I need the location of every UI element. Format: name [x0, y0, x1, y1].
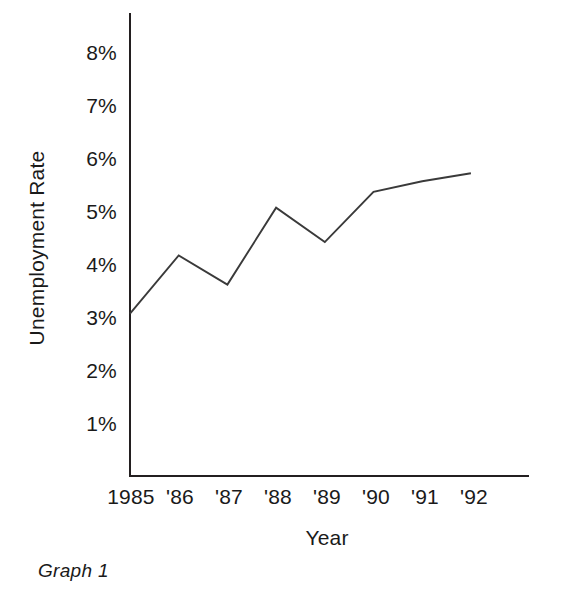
y-tick-label-1: 1%	[86, 412, 117, 435]
unemployment-rate-series-line	[130, 173, 471, 313]
unemployment-rate-line-chart: 8% 7% 6% 5% 4% 3% 2% 1% 1985 '86 '87 '88…	[0, 0, 572, 609]
x-axis-title: Year	[305, 526, 348, 549]
y-tick-label-6: 6%	[86, 147, 117, 170]
y-tick-label-4: 4%	[86, 253, 117, 276]
x-tick-label-86: '86	[166, 485, 194, 508]
y-tick-label-5: 5%	[86, 200, 117, 223]
y-tick-label-8: 8%	[86, 41, 117, 64]
x-tick-label-87: '87	[215, 485, 243, 508]
x-tick-label-91: '91	[411, 485, 439, 508]
y-tick-label-7: 7%	[86, 94, 117, 117]
x-axis-tick-labels: 1985 '86 '87 '88 '89 '90 '91 '92	[107, 485, 488, 508]
figure-caption: Graph 1	[38, 560, 109, 581]
y-tick-label-2: 2%	[86, 359, 117, 382]
chart-canvas: 8% 7% 6% 5% 4% 3% 2% 1% 1985 '86 '87 '88…	[0, 0, 572, 609]
x-tick-label-88: '88	[264, 485, 292, 508]
y-tick-label-3: 3%	[86, 306, 117, 329]
x-tick-label-90: '90	[362, 485, 390, 508]
x-tick-label-89: '89	[313, 485, 341, 508]
y-axis-tick-labels: 8% 7% 6% 5% 4% 3% 2% 1%	[86, 41, 117, 435]
y-axis-title: Unemployment Rate	[25, 151, 48, 346]
x-tick-label-1985: 1985	[107, 485, 155, 508]
x-tick-label-92: '92	[460, 485, 488, 508]
